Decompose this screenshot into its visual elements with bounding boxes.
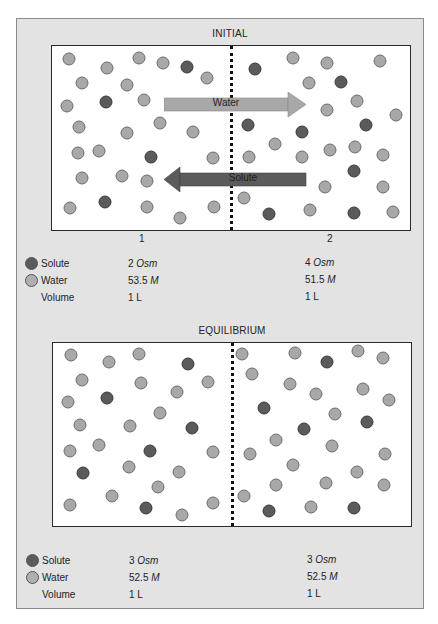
initial-c1-water: 53.5 M <box>128 274 159 288</box>
water-particle <box>174 212 187 225</box>
water-particle <box>76 172 89 185</box>
water-particle <box>379 448 392 461</box>
water-particle <box>124 420 137 433</box>
water-particle <box>236 348 249 361</box>
solute-particle <box>242 119 255 132</box>
water-arrow-label: Water <box>164 97 288 108</box>
water-particle <box>296 151 309 164</box>
water-particle <box>352 345 365 358</box>
water-dot-icon <box>25 274 38 287</box>
water-particle <box>310 388 323 401</box>
water-particle <box>63 53 76 66</box>
water-particle <box>135 377 148 390</box>
solute-arrow-label: Solute <box>180 172 306 183</box>
compartment-2-label: 2 <box>327 233 333 244</box>
water-particle <box>61 100 74 113</box>
solute-particle <box>144 445 157 458</box>
equilibrium-c1-volume: 1 L <box>129 588 143 602</box>
water-particle <box>303 77 316 90</box>
water-particle <box>208 201 221 214</box>
initial-c2-volume: 1 L <box>305 290 319 304</box>
water-particle <box>246 368 259 381</box>
water-particle <box>202 376 215 389</box>
water-particle <box>357 383 370 396</box>
water-particle <box>238 490 251 503</box>
water-particle <box>201 72 214 85</box>
water-particle <box>374 55 387 68</box>
water-particle <box>244 448 257 461</box>
equilibrium-c1-solute: 3 Osm <box>129 554 158 568</box>
water-particle <box>207 497 220 510</box>
water-particle <box>64 202 77 215</box>
water-particle <box>103 356 116 369</box>
solute-particle <box>182 358 195 371</box>
solute-particle <box>249 63 262 76</box>
water-particle <box>154 117 167 130</box>
water-particle <box>320 477 333 490</box>
solute-particle <box>348 165 361 178</box>
water-particle <box>377 181 390 194</box>
equilibrium-title: EQUILIBRIUM <box>152 325 312 336</box>
solute-particle <box>348 502 361 515</box>
water-particle <box>141 175 154 188</box>
water-particle <box>319 181 332 194</box>
solute-particle <box>181 61 194 74</box>
water-particle <box>390 109 403 122</box>
solute-particle <box>258 402 271 415</box>
water-particle <box>349 141 362 154</box>
water-particle <box>121 79 134 92</box>
solute-particle <box>361 416 374 429</box>
water-particle <box>74 419 87 432</box>
water-particle <box>173 466 186 479</box>
water-particle <box>305 501 318 514</box>
water-particle <box>270 434 283 447</box>
solute-particle <box>263 505 276 518</box>
water-particle <box>207 446 220 459</box>
water-particle <box>238 192 251 205</box>
water-particle <box>284 378 297 391</box>
water-particle <box>329 408 342 421</box>
water-particle <box>133 52 146 65</box>
water-particle <box>73 121 86 134</box>
equilibrium-c2-volume: 1 L <box>307 587 321 601</box>
water-particle <box>101 62 114 75</box>
water-particle <box>287 52 300 65</box>
compartment-1-label: 1 <box>139 233 145 244</box>
initial-c2-water: 51.5 M <box>305 273 336 287</box>
water-particle <box>138 94 151 107</box>
water-particle <box>121 127 134 140</box>
solute-particle <box>348 207 361 220</box>
water-particle <box>141 201 154 214</box>
equilibrium-c1-water: 52.5 M <box>129 571 160 585</box>
solute-particle <box>100 96 113 109</box>
initial-c1-solute: 2 Osm <box>128 257 157 271</box>
solute-arrow-label-wrap: Solute <box>180 172 306 186</box>
water-particle <box>351 466 364 479</box>
water-particle <box>377 149 390 162</box>
water-particle <box>187 126 200 139</box>
initial-title: INITIAL <box>150 28 310 39</box>
water-particle <box>383 394 396 407</box>
water-particle <box>93 145 106 158</box>
solute-particle <box>99 196 112 209</box>
water-particle <box>106 490 119 503</box>
water-particle <box>123 461 136 474</box>
solute-particle <box>186 422 199 435</box>
solute-particle <box>77 467 90 480</box>
solute-particle <box>145 151 158 164</box>
water-particle <box>289 347 302 360</box>
solute-particle <box>321 356 334 369</box>
water-particle <box>154 407 167 420</box>
solute-dot-icon <box>26 554 39 567</box>
water-particle <box>93 439 106 452</box>
solute-particle <box>360 119 373 132</box>
solute-dot-icon <box>25 257 38 270</box>
water-particle <box>378 479 391 492</box>
water-particle <box>76 77 89 90</box>
solute-particle <box>298 423 311 436</box>
initial-membrane <box>230 46 233 230</box>
water-particle <box>269 138 282 151</box>
water-particle <box>326 440 339 453</box>
water-arrow-label-wrap: Water <box>164 97 288 111</box>
water-particle <box>351 95 364 108</box>
